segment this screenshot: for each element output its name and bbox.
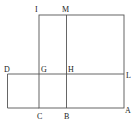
label-M: M [62,5,69,14]
label-A: A [125,106,131,115]
label-D: D [4,65,10,74]
label-G: G [41,65,47,74]
large-square [39,15,124,108]
label-L: L [126,71,131,80]
geometry-diagram: I M D G H L C B A [0,0,136,132]
label-I: I [35,5,38,14]
label-H: H [68,65,74,74]
label-B: B [64,112,69,121]
label-C: C [37,112,42,121]
